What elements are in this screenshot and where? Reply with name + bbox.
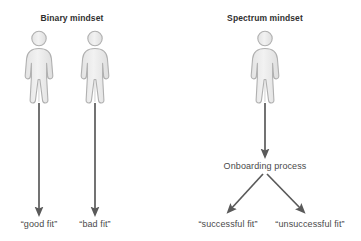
onboarding-process-label: Onboarding process [224,162,307,171]
outcome-label-bad-fit: “bad fit” [79,220,110,229]
arrow-down-left-icon [230,174,263,210]
person-icon [251,31,279,103]
diagram-canvas: Binary mindset Spectrum mindset Onboardi… [0,0,361,241]
outcome-label-unsuccessful-fit: “unsuccessful fit” [275,220,344,229]
diagram-graphics-layer [0,0,361,241]
outcome-label-successful-fit: “successful fit” [198,220,257,229]
arrow-down-right-icon [267,174,302,210]
panel-heading-binary: Binary mindset [41,14,104,23]
person-icon [25,31,53,103]
person-icon [81,31,109,103]
panel-heading-spectrum: Spectrum mindset [227,14,303,23]
outcome-label-good-fit: “good fit” [21,220,58,229]
